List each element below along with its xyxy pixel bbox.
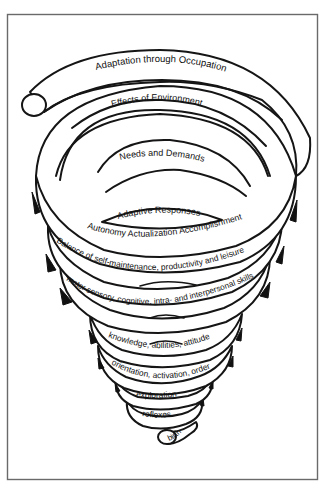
label-exploration: exploration (136, 389, 178, 400)
label-reflexes: reflexes (142, 408, 172, 420)
tube-end-top (22, 94, 46, 116)
spiral-diagram: Adaptation through Occupation Effects of… (0, 0, 326, 488)
